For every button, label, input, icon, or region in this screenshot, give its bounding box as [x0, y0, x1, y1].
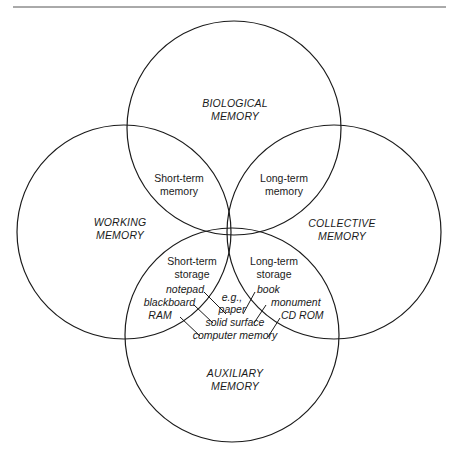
label-line: Short-term: [144, 172, 214, 185]
label-line: MEMORY: [80, 229, 160, 242]
label-line: AUXILIARY: [195, 367, 275, 380]
example-cd-rom: CD ROM: [281, 309, 329, 322]
example-notepad: notepad: [160, 283, 204, 296]
label-line: Long-term: [251, 172, 317, 185]
label-line: storage: [241, 268, 307, 281]
label-line: COLLECTIVE: [299, 217, 385, 230]
label-line: Short-term: [157, 255, 227, 268]
label-line: BIOLOGICAL: [194, 97, 276, 110]
label-long-term-storage: Long-term storage: [241, 255, 307, 281]
label-working-memory: WORKING MEMORY: [80, 216, 160, 242]
example-monument: monument: [271, 296, 323, 309]
label-line: MEMORY: [299, 230, 385, 243]
label-line: memory: [144, 185, 214, 198]
label-line: storage: [157, 268, 227, 281]
example-book: book: [257, 283, 287, 296]
label-auxiliary-memory: AUXILIARY MEMORY: [195, 367, 275, 393]
label-collective-memory: COLLECTIVE MEMORY: [299, 217, 385, 243]
label-line: Long-term: [241, 255, 307, 268]
example-solid-surface: solid surface: [200, 316, 270, 329]
label-line: MEMORY: [194, 110, 276, 123]
label-short-term-memory: Short-term memory: [144, 172, 214, 198]
example-paper: paper: [213, 303, 251, 316]
example-computer-memory: computer memory: [185, 329, 285, 342]
label-line: MEMORY: [195, 380, 275, 393]
example-blackboard: blackboard: [137, 296, 195, 309]
label-short-term-storage: Short-term storage: [157, 255, 227, 281]
label-long-term-memory: Long-term memory: [251, 172, 317, 198]
label-biological-memory: BIOLOGICAL MEMORY: [194, 97, 276, 123]
example-ram: RAM: [145, 309, 175, 322]
label-line: WORKING: [80, 216, 160, 229]
label-line: memory: [251, 185, 317, 198]
